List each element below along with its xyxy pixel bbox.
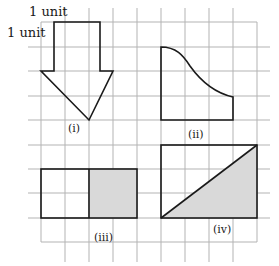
unit-label-horizontal: 1 unit — [29, 4, 68, 19]
geometry-diagram: 1 unit 1 unit (i) (ii) (iii) (iv) — [0, 0, 279, 266]
figure-ii-label: (ii) — [188, 128, 204, 141]
figure-iii-label: (iii) — [94, 231, 113, 244]
figure-iv-label: (iv) — [213, 223, 231, 236]
grid — [28, 8, 270, 262]
unit-label-vertical: 1 unit — [7, 25, 46, 40]
figure-ii-curved-shape — [161, 47, 233, 120]
figure-i-label: (i) — [68, 122, 80, 135]
